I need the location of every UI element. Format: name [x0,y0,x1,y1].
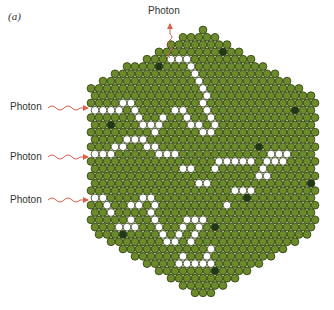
lattice-cell [147,77,155,85]
lattice-cell [191,99,199,107]
lattice-cell [275,77,283,85]
lattice-cell [155,252,163,260]
path-cell [187,121,195,129]
lattice-cell [179,194,187,202]
lattice-cell [175,99,183,107]
lattice-cell [123,150,131,158]
lattice-cell [111,70,119,78]
lattice-cell [143,201,151,209]
lattice-cell [267,209,275,217]
lattice-cell [307,223,315,231]
lattice-cell [191,55,199,63]
lattice-cell [215,231,223,239]
path-cell [283,150,291,158]
lattice-cell [143,128,151,136]
lattice-cell [307,106,315,114]
path-cell [147,121,155,129]
lattice-cell [155,92,163,100]
path-cell [183,55,191,63]
lattice-cell [87,128,95,136]
lattice-cell [295,99,303,107]
lattice-cell [299,136,307,144]
lattice-cell [91,136,99,144]
lattice-cell [251,223,259,231]
lattice-cell [143,172,151,180]
lattice-cell [275,121,283,129]
path-cell [119,99,127,107]
lattice-cell [291,223,299,231]
path-cell [119,143,127,151]
lattice-cell [223,274,231,282]
lattice-cell [275,136,283,144]
lattice-cell [283,92,291,100]
lattice-cell [247,260,255,268]
path-cell [247,158,255,166]
lattice-cell [275,106,283,114]
lattice-cell [243,238,251,246]
lattice-cell [215,201,223,209]
lattice-cell [139,252,147,260]
lattice-cell [247,143,255,151]
lattice-cell [251,63,259,71]
lattice-cell [127,85,135,93]
lattice-cell [119,128,127,136]
lattice-cell [239,172,247,180]
path-cell [91,194,99,202]
path-cell [99,150,107,158]
lattice-cell [191,158,199,166]
lattice-cell [215,128,223,136]
path-cell [159,231,167,239]
lattice-cell [231,216,239,224]
lattice-cell [195,48,203,56]
lattice-cell [267,136,275,144]
lattice-cell [171,252,179,260]
path-cell [199,260,207,268]
lattice-cell [183,231,191,239]
lattice-cell [247,231,255,239]
lattice-cell [283,209,291,217]
lattice-cell [303,216,311,224]
lattice-cell [259,136,267,144]
lattice-cell [239,55,247,63]
lattice-cell [275,238,283,246]
path-cell [139,194,147,202]
lattice-cell [199,289,207,297]
lattice-cell [267,121,275,129]
lattice-cell [199,114,207,122]
path-cell [127,216,135,224]
path-cell [267,150,275,158]
lattice-cell [179,48,187,56]
path-cell [203,106,211,114]
lattice-cell [195,238,203,246]
lattice-cell [259,77,267,85]
lattice-cell [263,201,271,209]
lattice-cell [155,136,163,144]
lattice-cell [263,85,271,93]
path-cell [239,158,247,166]
lattice-cell [295,128,303,136]
lattice-cell [235,150,243,158]
lattice-cell [267,77,275,85]
lattice-cell [279,143,287,151]
lattice-cell [175,158,183,166]
lattice-cell [95,172,103,180]
lattice-cell [239,245,247,253]
lattice-cell [219,77,227,85]
lattice-cell [207,231,215,239]
lattice-cell [171,267,179,275]
lattice-cell [115,194,123,202]
lattice-cell [127,128,135,136]
lattice-cell [223,85,231,93]
lattice-cell [111,99,119,107]
lattice-cell [191,41,199,49]
lattice-cell [219,267,227,275]
lattice-cell [143,99,151,107]
lattice-cell [239,114,247,122]
lattice-cell [87,114,95,122]
lattice-cell [171,165,179,173]
lattice-cell [207,274,215,282]
lattice-cell [251,106,259,114]
lattice-cell [247,172,255,180]
path-cell [187,165,195,173]
lattice-cell [131,194,139,202]
